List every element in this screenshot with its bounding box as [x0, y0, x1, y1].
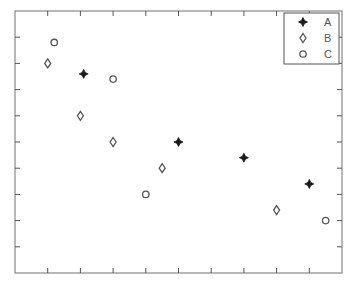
legend-label: C: [324, 48, 332, 60]
data-point-a: [79, 69, 88, 78]
data-point-a: [239, 153, 248, 162]
data-point-b: [77, 111, 83, 120]
data-point-c: [143, 191, 149, 197]
legend-label: A: [324, 16, 332, 28]
data-point-b: [274, 206, 280, 215]
legend-label: B: [324, 32, 331, 44]
legend: ABC: [284, 13, 339, 64]
data-point-a: [174, 138, 183, 147]
data-point-c: [322, 217, 328, 223]
data-point-c: [110, 76, 116, 82]
data-point-b: [110, 138, 116, 147]
data-point-a: [305, 179, 314, 188]
scatter-chart: ABC: [0, 0, 353, 286]
data-point-b: [159, 164, 165, 173]
data-point-b: [45, 59, 51, 68]
data-point-c: [51, 39, 57, 45]
data-points: [45, 39, 329, 224]
